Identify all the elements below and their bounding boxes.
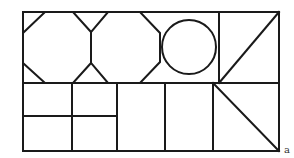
circle (162, 20, 216, 74)
geometric-figure: a (0, 0, 294, 158)
diagonal-top-right (219, 12, 279, 83)
diagonal-bottom-right (213, 83, 279, 151)
figure-label: a (284, 144, 290, 155)
octagon-1 (23, 12, 91, 83)
outer-frame (23, 12, 279, 151)
octagon-2 (91, 12, 160, 83)
